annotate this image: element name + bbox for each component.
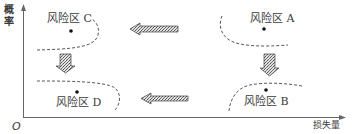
zone-d-label: 风险区 D bbox=[56, 97, 101, 108]
zone-a-label: 风险区 A bbox=[250, 13, 294, 24]
zone-b-dot bbox=[264, 88, 268, 92]
x-axis bbox=[23, 115, 346, 120]
zone-c-dot bbox=[69, 29, 73, 33]
zone-c-label: 风险区 C bbox=[47, 13, 92, 24]
origin-label: O bbox=[12, 120, 21, 133]
zone-b-label: 风险区 B bbox=[244, 96, 289, 107]
arrow-left-b-to-d bbox=[141, 93, 188, 104]
x-axis-label: 损失量 bbox=[313, 120, 340, 131]
y-axis bbox=[21, 4, 26, 117]
arrow-left-a-to-c bbox=[130, 23, 178, 35]
arrow-down-a-to-b bbox=[260, 54, 279, 76]
arrow-down-c-to-d bbox=[56, 54, 75, 73]
zone-a-dot bbox=[262, 27, 266, 31]
y-axis-label: 概率 bbox=[4, 4, 15, 28]
zone-d-dot bbox=[75, 90, 79, 94]
